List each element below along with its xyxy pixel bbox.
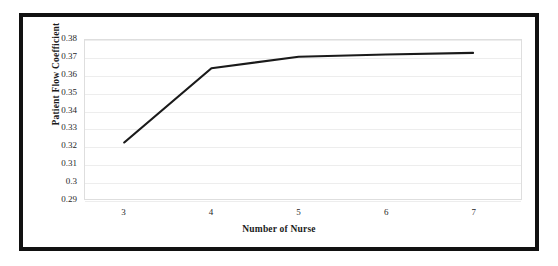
x-tick-label: 4 bbox=[196, 208, 226, 217]
y-tick-label: 0.32 bbox=[35, 141, 77, 150]
x-tick-label: 6 bbox=[371, 208, 401, 217]
x-tick-label: 5 bbox=[284, 208, 314, 217]
y-tick-label: 0.37 bbox=[35, 52, 77, 61]
y-tick-label: 0.38 bbox=[35, 34, 77, 43]
y-tick-label: 0.29 bbox=[35, 195, 77, 204]
y-tick-label: 0.36 bbox=[35, 70, 77, 79]
y-tick-label: 0.3 bbox=[35, 177, 77, 186]
series-line-patient-flow-coefficient bbox=[85, 40, 521, 199]
plot-area bbox=[84, 39, 522, 200]
y-tick-label: 0.33 bbox=[35, 123, 77, 132]
x-tick-label: 7 bbox=[459, 208, 489, 217]
y-tick-label: 0.31 bbox=[35, 159, 77, 168]
y-tick-label: 0.35 bbox=[35, 88, 77, 97]
line-chart: Patient Flow Coefficient 0.380.370.360.3… bbox=[23, 17, 535, 247]
gridline bbox=[85, 201, 521, 202]
y-tick-label: 0.34 bbox=[35, 106, 77, 115]
figure-frame: Patient Flow Coefficient 0.380.370.360.3… bbox=[19, 13, 539, 251]
x-tick-label: 3 bbox=[108, 208, 138, 217]
x-axis-title: Number of Nurse bbox=[23, 224, 535, 234]
